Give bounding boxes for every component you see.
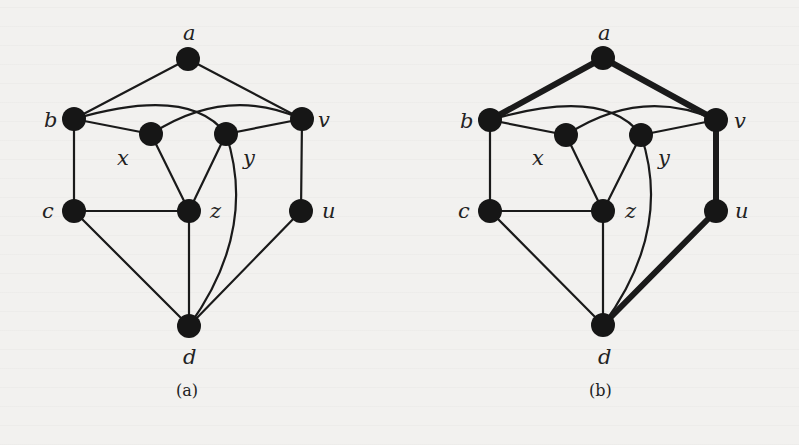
edge-x-z [566,135,603,211]
node-z [591,199,615,223]
node-d [177,314,201,338]
edge-v-u [301,119,302,211]
node-label-a: a [183,21,196,45]
node-label-y: y [657,146,671,170]
edge-c-d [74,211,189,326]
edge-u-d [189,211,301,326]
edge-a-b [490,58,603,120]
node-label-d: d [183,345,196,369]
node-label-y: y [242,146,256,170]
edge-c-d [490,211,603,325]
caption-a: (a) [176,381,198,400]
node-label-b: b [44,108,57,132]
caption-b: (b) [589,381,612,400]
node-label-u: u [322,199,336,223]
node-label-c: c [42,199,54,223]
node-a [176,47,200,71]
node-c [62,199,86,223]
node-c [478,199,502,223]
edge-x-z [151,134,189,211]
node-label-c: c [458,199,470,223]
node-y [214,122,238,146]
node-label-v: v [318,108,330,132]
node-label-d: d [598,345,611,369]
node-x [139,122,163,146]
node-x [554,123,578,147]
graph-panel-b: abvxyczud [458,21,749,369]
node-b [478,108,502,132]
node-a [591,46,615,70]
node-v [704,108,728,132]
graph-canvas: abvxyczudabvxyczud [0,0,799,445]
node-label-x: x [117,146,129,170]
node-label-z: z [209,199,222,223]
edge-a-b [74,59,188,119]
graph-panel-a: abvxyczud [42,21,336,369]
node-u [704,199,728,223]
node-label-u: u [735,199,749,223]
node-u [289,199,313,223]
node-label-a: a [598,21,611,45]
edge-u-d [603,211,716,325]
node-b [62,107,86,131]
node-label-v: v [734,109,746,133]
node-label-b: b [460,109,473,133]
node-d [591,313,615,337]
node-y [629,123,653,147]
node-z [177,199,201,223]
node-label-x: x [532,146,544,170]
node-label-z: z [624,199,637,223]
node-v [290,107,314,131]
figure: abvxyczudabvxyczud (a) (b) [0,0,799,445]
